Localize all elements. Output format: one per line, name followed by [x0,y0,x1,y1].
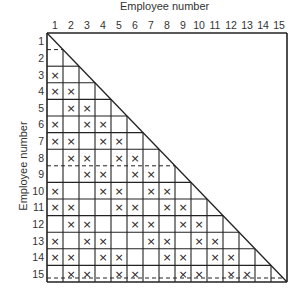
pair-mark: × [50,185,59,198]
row-label: 7 [38,135,44,147]
pair-mark: × [98,235,107,248]
pair-mark: × [66,102,75,115]
pair-mark: × [82,235,91,248]
pair-mark: × [194,235,203,248]
column-label: 6 [132,19,138,31]
pair-mark: × [114,201,123,214]
pair-mark: × [226,268,235,281]
pair-mark: × [130,201,139,214]
column-label: 2 [68,19,74,31]
pair-mark: × [50,135,59,148]
pair-mark: × [114,268,123,281]
pair-mark: × [130,168,139,181]
row-label: 3 [38,69,44,81]
row-label: 12 [32,218,44,230]
row-label: 10 [32,185,44,197]
pair-mark: × [162,251,171,264]
pair-mark: × [114,251,123,264]
row-label: 15 [32,268,44,280]
pair-mark: × [162,201,171,214]
column-label: 5 [116,19,122,31]
pair-mark: × [66,201,75,214]
pair-mark: × [66,152,75,165]
pair-mark: × [50,118,59,131]
row-label: 2 [38,52,44,64]
column-label: 15 [273,19,285,31]
pair-mark: × [146,218,155,231]
pairing-matrix-diagram: 1234567891011121314151234567891011121314… [0,0,296,293]
column-label: 8 [164,19,170,31]
pair-mark: × [66,135,75,148]
pair-mark: × [210,235,219,248]
pair-mark: × [114,152,123,165]
pair-mark: × [178,201,187,214]
row-label: 8 [38,152,44,164]
pair-mark: × [66,218,75,231]
pair-mark: × [82,168,91,181]
pair-mark: × [226,251,235,264]
pair-mark: × [98,118,107,131]
column-label: 4 [100,19,106,31]
pair-mark: × [162,235,171,248]
row-label: 14 [32,251,44,263]
column-label: 11 [210,19,221,31]
pair-mark: × [130,268,139,281]
column-label: 14 [257,19,269,31]
pair-mark: × [114,135,123,148]
column-label: 1 [52,19,58,31]
pair-mark: × [194,218,203,231]
pair-mark: × [82,102,91,115]
pair-mark: × [114,185,123,198]
row-label: 9 [38,168,44,180]
pair-mark: × [130,152,139,165]
pair-mark: × [50,85,59,98]
column-label: 10 [193,19,205,31]
pair-mark: × [194,268,203,281]
column-label: 13 [241,19,253,31]
pair-mark: × [178,268,187,281]
pair-mark: × [82,268,91,281]
pair-mark: × [82,152,91,165]
pair-mark: × [98,135,107,148]
pair-mark: × [82,118,91,131]
pair-mark: × [146,168,155,181]
pair-mark: × [98,168,107,181]
pair-mark: × [242,268,251,281]
pair-mark: × [178,251,187,264]
pair-mark: × [98,251,107,264]
pair-mark: × [66,251,75,264]
pair-mark: × [50,251,59,264]
pair-mark: × [178,218,187,231]
row-label: 6 [38,118,44,130]
pair-mark: × [146,185,155,198]
row-label: 13 [32,235,44,247]
pair-mark: × [162,185,171,198]
row-label: 5 [38,102,44,114]
pair-mark: × [50,235,59,248]
column-label: 3 [84,19,90,31]
row-label: 4 [38,85,44,97]
pair-mark: × [66,268,75,281]
pair-mark: × [98,185,107,198]
pair-mark: × [66,85,75,98]
row-label: 1 [38,35,44,47]
pair-mark: × [50,201,59,214]
column-label: 7 [148,19,154,31]
column-label: 9 [180,19,186,31]
pair-mark: × [210,251,219,264]
row-label: 11 [33,201,44,213]
pair-mark: × [146,235,155,248]
pair-mark: × [82,218,91,231]
pair-mark: × [130,218,139,231]
pair-mark: × [50,69,59,82]
column-label: 12 [225,19,237,31]
